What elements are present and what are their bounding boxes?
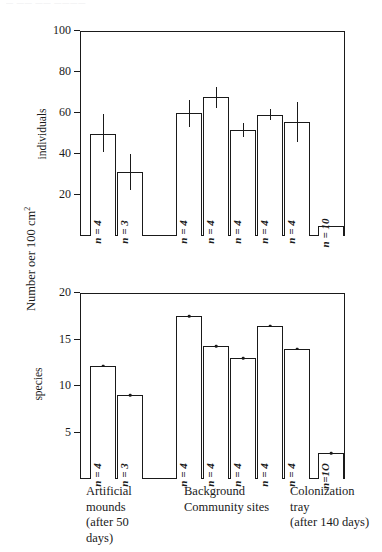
y-axis-title-superscript: 2	[23, 207, 32, 211]
bar-sample-size-label: n = 10	[320, 219, 331, 248]
x-group-artificial-mounds: Artificial mounds (after 50 days)	[86, 484, 176, 546]
bar: n = 3	[117, 395, 143, 479]
x-group-line-1: Colonization	[290, 484, 382, 500]
error-bar	[189, 100, 190, 128]
y-tick-label: 20	[59, 187, 71, 202]
data-point-marker	[129, 394, 132, 397]
y-tick: 10	[74, 385, 80, 386]
bar: n = 4	[176, 316, 202, 479]
x-group-line-3: (after 50	[86, 515, 176, 531]
error-bar	[243, 123, 244, 136]
y-tick: 40	[74, 153, 80, 154]
error-bar	[103, 114, 104, 152]
x-group-background-community-sites: Background Community sites	[184, 484, 304, 515]
bar-sample-size-label: n = 4	[92, 220, 103, 243]
y-tick-label: 20	[59, 285, 71, 300]
data-point-marker	[188, 315, 191, 318]
bar-sample-size-label: n = 3	[119, 220, 130, 243]
data-point-marker	[242, 357, 245, 360]
y-tick-label: 60	[59, 105, 71, 120]
error-bar	[130, 154, 131, 190]
bar: n = 4	[203, 97, 229, 236]
y-tick-label: 10	[59, 378, 71, 393]
x-group-line-1: Artificial	[86, 484, 176, 500]
figure-panel-chart: — —— —— ———— Number oer 100 cm2 individu…	[0, 0, 382, 552]
x-group-line-4: days)	[86, 531, 176, 547]
y-tick: 20	[74, 194, 80, 195]
y-tick-label: 80	[59, 64, 71, 79]
chart-individuals: 20406080100 n = 4n = 3n = 4n = 4n = 4n =…	[80, 31, 345, 236]
bar-sample-size-label: n = 4	[205, 220, 216, 243]
error-bar	[270, 109, 271, 120]
y-tick-label: 40	[59, 146, 71, 161]
bar-sample-size-label: n = 4	[286, 220, 297, 243]
y-tick: 100	[74, 30, 80, 31]
y-tick: 5	[74, 432, 80, 433]
y-tick: 15	[74, 339, 80, 340]
bar: n = 10	[318, 226, 344, 236]
x-axis-group-labels: Artificial mounds (after 50 days) Backgr…	[0, 484, 382, 552]
y-axis-title-individuals: individuals	[36, 89, 48, 179]
y-tick: 80	[74, 71, 80, 72]
x-group-line-1: Background	[184, 484, 304, 500]
x-group-colonization-tray: Colonization tray (after 140 days)	[290, 484, 382, 531]
x-group-line-2: mounds	[86, 500, 176, 516]
y-tick: 20	[74, 292, 80, 293]
y-tick-label: 15	[59, 332, 71, 347]
bar-sample-size-label: n = 4	[259, 220, 270, 243]
y-axis-title-species: species	[32, 349, 44, 419]
data-point-marker	[102, 364, 105, 367]
bar-sample-size-label: n = 4	[232, 220, 243, 243]
bar-sample-size-label: n = 4	[178, 220, 189, 243]
y-axis-title-main: Number oer 100 cm2	[23, 161, 39, 311]
bar: n = 4	[203, 346, 229, 479]
data-point-marker	[330, 452, 333, 455]
bar: n=1O	[318, 453, 344, 479]
chart-species: 5101520 n = 4n = 3n = 4n = 4n = 4n = 4n …	[80, 293, 345, 479]
data-point-marker	[296, 348, 299, 351]
bar: n = 4	[90, 366, 116, 479]
bar: n = 4	[257, 115, 283, 236]
bar: n = 4	[176, 113, 202, 236]
y-tick: 60	[74, 112, 80, 113]
x-group-line-2: tray	[290, 500, 382, 516]
bar: n = 4	[257, 326, 283, 479]
x-group-line-2: Community sites	[184, 500, 304, 516]
x-group-line-3: (after 140 days)	[290, 515, 382, 531]
bar: n = 4	[230, 358, 256, 479]
caption-remnant-text: — —— —— ————	[6, 0, 86, 6]
error-bar	[297, 102, 298, 142]
bar: n = 4	[284, 349, 310, 479]
data-point-marker	[269, 324, 272, 327]
y-tick-label: 5	[65, 425, 71, 440]
bar: n = 4	[230, 130, 256, 236]
y-tick-label: 100	[53, 23, 71, 38]
y-axis-title-main-text: Number oer 100 cm	[24, 211, 38, 311]
error-bar	[216, 87, 217, 108]
data-point-marker	[215, 345, 218, 348]
